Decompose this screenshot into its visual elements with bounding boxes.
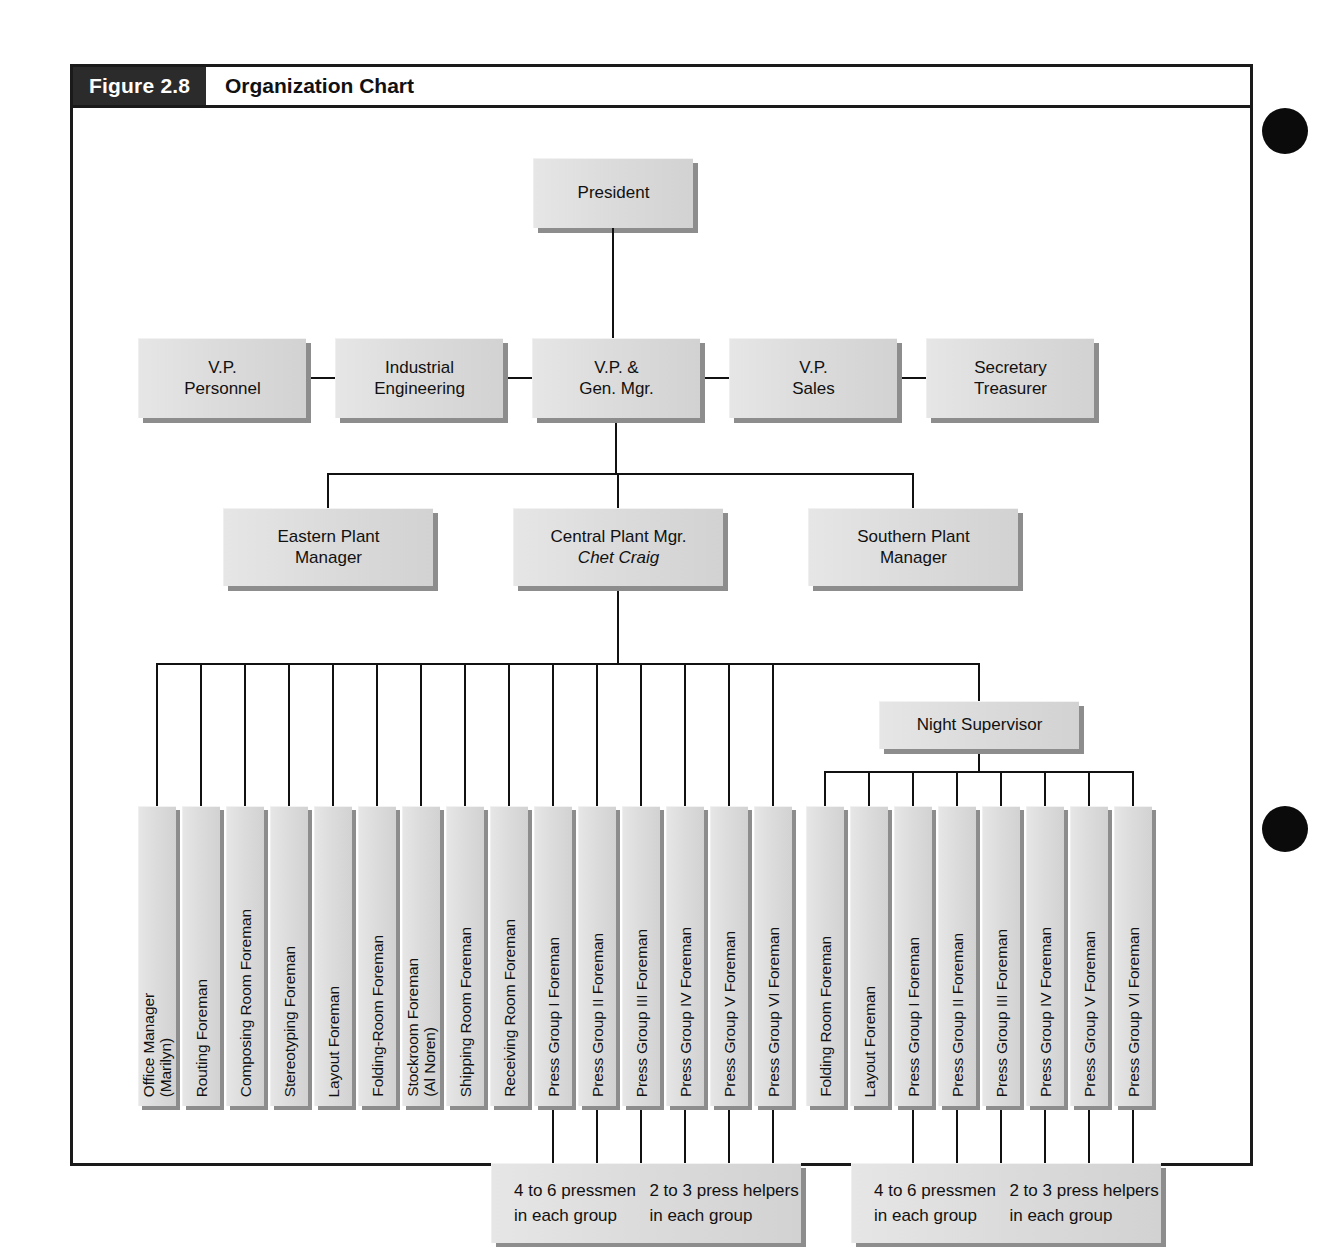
node-layout-foreman[interactable]: Layout Foreman: [314, 806, 352, 1106]
note-night-pressmen[interactable]: 4 to 6 pressmen in each group2 to 3 pres…: [851, 1163, 1161, 1243]
page-title: Organization Chart: [206, 67, 414, 105]
connector-central-down: [617, 591, 619, 663]
node-label: Stereotyping Foreman: [281, 946, 298, 1097]
connector-day-drop-8: [464, 663, 466, 806]
node-stereotyping-foreman[interactable]: Stereotyping Foreman: [270, 806, 308, 1106]
node-label: SecretaryTreasurer: [974, 358, 1047, 399]
node-label: Routing Foreman: [193, 979, 210, 1097]
node-night-layout-foreman[interactable]: Layout Foreman: [850, 806, 888, 1106]
figure-frame: Figure 2.8 Organization Chart PresidentV…: [70, 64, 1253, 1166]
connector-night-drop-4: [956, 771, 958, 806]
connector-night-drop-1: [824, 771, 826, 806]
connector-day-drop-13: [684, 663, 686, 806]
node-label: Receiving Room Foreman: [501, 919, 518, 1097]
note-line-1: 4 to 6 pressmen in each group: [514, 1179, 649, 1228]
node-label: V.P.Personnel: [184, 358, 261, 399]
node-label: V.P. &Gen. Mgr.: [579, 358, 654, 399]
connector-vp-row-3: [705, 377, 729, 379]
node-folding-room-foreman[interactable]: Folding-Room Foreman: [358, 806, 396, 1106]
connector-plant-drop-2: [617, 473, 619, 508]
page-margin-dot-bottom: [1262, 806, 1308, 852]
node-secretary-treasurer[interactable]: SecretaryTreasurer: [926, 338, 1094, 418]
node-industrial-engineering[interactable]: IndustrialEngineering: [335, 338, 503, 418]
node-label: Press Group III Foreman: [993, 929, 1010, 1097]
connector-day-press-note-3: [640, 1110, 642, 1163]
connector-day-drop-1: [156, 663, 158, 806]
node-label: Press Group VI Foreman: [765, 927, 782, 1097]
connector-gm-down: [615, 423, 617, 473]
connector-day-drop-7: [420, 663, 422, 806]
node-label: Folding Room Foreman: [817, 936, 834, 1097]
note-day-pressmen[interactable]: 4 to 6 pressmen in each group2 to 3 pres…: [491, 1163, 801, 1243]
connector-night-drop-6: [1044, 771, 1046, 806]
connector-night-drop-7: [1088, 771, 1090, 806]
node-label: Press Group IV Foreman: [1037, 927, 1054, 1097]
connector-night-drop-5: [1000, 771, 1002, 806]
node-night-press-group-2-foreman[interactable]: Press Group II Foreman: [938, 806, 976, 1106]
node-night-supervisor[interactable]: Night Supervisor: [879, 701, 1079, 749]
connector-night-press-note-5: [1088, 1110, 1090, 1163]
node-office-manager[interactable]: Office Manager (Marilyn): [138, 806, 176, 1106]
node-night-folding-room-foreman[interactable]: Folding Room Foreman: [806, 806, 844, 1106]
node-label: Press Group I Foreman: [905, 937, 922, 1097]
node-night-press-group-6-foreman[interactable]: Press Group VI Foreman: [1114, 806, 1152, 1106]
node-central-plant-manager[interactable]: Central Plant Mgr.Chet Craig: [513, 508, 723, 586]
node-eastern-plant-manager[interactable]: Eastern PlantManager: [223, 508, 433, 586]
connector-day-press-note-5: [728, 1110, 730, 1163]
node-press-group-1-foreman[interactable]: Press Group I Foreman: [534, 806, 572, 1106]
connector-vp-row-2: [508, 377, 532, 379]
node-label: Press Group III Foreman: [633, 929, 650, 1097]
connector-night-supervisor-down: [978, 754, 980, 771]
node-night-press-group-5-foreman[interactable]: Press Group V Foreman: [1070, 806, 1108, 1106]
node-president[interactable]: President: [533, 158, 693, 228]
connector-day-drop-10: [552, 663, 554, 806]
node-label: Press Group II Foreman: [589, 933, 606, 1097]
connector-night-press-note-2: [956, 1110, 958, 1163]
connector-day-drop-4: [288, 663, 290, 806]
figure-number-label: Figure 2.8: [73, 67, 206, 105]
page-margin-dot-top: [1262, 108, 1308, 154]
note-line-2: 2 to 3 press helpers in each group: [649, 1179, 801, 1228]
connector-night-drop-3: [912, 771, 914, 806]
node-press-group-4-foreman[interactable]: Press Group IV Foreman: [666, 806, 704, 1106]
node-label: Eastern PlantManager: [277, 527, 379, 568]
connector-day-drop-11: [596, 663, 598, 806]
node-label: Southern PlantManager: [857, 527, 969, 568]
connector-plant-drop-3: [912, 473, 914, 508]
connector-night-supervisor-drop: [978, 663, 980, 701]
connector-day-drop-12: [640, 663, 642, 806]
node-stockroom-foreman[interactable]: Stockroom Foreman (Al Noren): [402, 806, 440, 1106]
connector-day-shift-bus: [156, 663, 980, 665]
node-label: Press Group VI Foreman: [1125, 927, 1142, 1097]
connector-day-drop-5: [332, 663, 334, 806]
node-routing-foreman[interactable]: Routing Foreman: [182, 806, 220, 1106]
node-night-press-group-4-foreman[interactable]: Press Group IV Foreman: [1026, 806, 1064, 1106]
node-label: President: [578, 183, 650, 204]
node-vp-sales[interactable]: V.P.Sales: [729, 338, 897, 418]
node-night-press-group-3-foreman[interactable]: Press Group III Foreman: [982, 806, 1020, 1106]
connector-day-press-note-1: [552, 1110, 554, 1163]
node-press-group-2-foreman[interactable]: Press Group II Foreman: [578, 806, 616, 1106]
node-press-group-5-foreman[interactable]: Press Group V Foreman: [710, 806, 748, 1106]
connector-night-press-note-6: [1132, 1110, 1134, 1163]
connector-night-press-note-1: [912, 1110, 914, 1163]
node-shipping-room-foreman[interactable]: Shipping Room Foreman: [446, 806, 484, 1106]
node-vp-personnel[interactable]: V.P.Personnel: [138, 338, 306, 418]
connector-night-drop-8: [1132, 771, 1134, 806]
node-press-group-3-foreman[interactable]: Press Group III Foreman: [622, 806, 660, 1106]
connector-night-press-note-4: [1044, 1110, 1046, 1163]
node-press-group-6-foreman[interactable]: Press Group VI Foreman: [754, 806, 792, 1106]
node-label: Layout Foreman: [325, 986, 342, 1097]
connector-night-drop-2: [868, 771, 870, 806]
node-vp-gen-mgr[interactable]: V.P. &Gen. Mgr.: [532, 338, 700, 418]
node-label: Office Manager (Marilyn): [140, 993, 175, 1097]
node-label: Stockroom Foreman (Al Noren): [404, 958, 439, 1097]
node-label: Night Supervisor: [917, 715, 1043, 736]
node-composing-room-foreman[interactable]: Composing Room Foreman: [226, 806, 264, 1106]
node-label: Shipping Room Foreman: [457, 927, 474, 1097]
node-southern-plant-manager[interactable]: Southern PlantManager: [808, 508, 1018, 586]
node-label: Folding-Room Foreman: [369, 935, 386, 1097]
node-label: IndustrialEngineering: [374, 358, 465, 399]
node-night-press-group-1-foreman[interactable]: Press Group I Foreman: [894, 806, 932, 1106]
node-receiving-room-foreman[interactable]: Receiving Room Foreman: [490, 806, 528, 1106]
